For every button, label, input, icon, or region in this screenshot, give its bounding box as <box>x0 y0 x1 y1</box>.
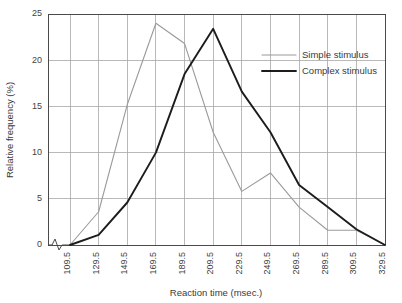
x-tick-label: 269.5 <box>291 252 301 275</box>
y-tick-label: 20 <box>32 55 42 65</box>
x-tick-label: 129.5 <box>91 252 101 275</box>
x-tick-label: 249.5 <box>262 252 272 275</box>
y-tick-label: 10 <box>32 147 42 157</box>
chart-figure: 0510152025 109.5129.5149.5169.5189.5209.… <box>0 0 402 303</box>
x-tick-label: 289.5 <box>320 252 330 275</box>
y-axis-title: Relative frequency (%) <box>4 82 15 178</box>
y-tick-label: 15 <box>32 101 42 111</box>
x-axis-title: Reaction time (msec.) <box>170 287 262 298</box>
line-chart: 0510152025 109.5129.5149.5169.5189.5209.… <box>0 0 402 303</box>
x-tick-label: 109.5 <box>62 252 72 275</box>
x-tick-labels: 109.5129.5149.5169.5189.5209.5229.5249.5… <box>62 252 387 275</box>
y-tick-labels: 0510152025 <box>32 8 42 249</box>
x-tick-label: 309.5 <box>348 252 358 275</box>
chart-legend: Simple stimulus Complex stimulus <box>262 49 377 76</box>
series-line-complex-stimulus <box>70 29 385 245</box>
x-tick-label: 149.5 <box>119 252 129 275</box>
x-tick-label: 189.5 <box>177 252 187 275</box>
y-tick-label: 0 <box>37 239 42 249</box>
legend-label-complex-stimulus: Complex stimulus <box>302 65 377 76</box>
x-tick-label: 209.5 <box>205 252 215 275</box>
legend-label-simple-stimulus: Simple stimulus <box>302 49 369 60</box>
x-tick-label: 329.5 <box>377 252 387 275</box>
x-tick-label: 169.5 <box>148 252 158 275</box>
y-tick-label: 5 <box>37 193 42 203</box>
x-tick-label: 229.5 <box>234 252 244 275</box>
y-tick-label: 25 <box>32 8 42 18</box>
